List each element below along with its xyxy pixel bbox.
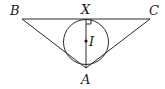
segment-ba — [22, 19, 86, 68]
label-b: B — [9, 3, 20, 18]
point-i-dot — [84, 39, 87, 42]
label-i: I — [88, 34, 95, 49]
label-c: C — [149, 3, 159, 18]
label-a: A — [80, 72, 90, 87]
segment-ca — [86, 19, 150, 68]
label-x: X — [80, 2, 91, 17]
geometry-diagram: B X C I A — [0, 0, 165, 89]
